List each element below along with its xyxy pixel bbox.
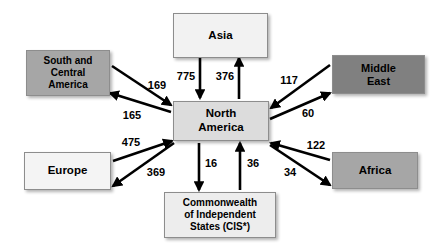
node-label: Commonwealth of Independent States (CIS*… [181, 197, 259, 232]
node-africa[interactable]: Africa [332, 152, 418, 189]
flow-value-south-central-america-to-north-america: 169 [148, 79, 166, 91]
flow-value-asia-to-north-america: 775 [177, 70, 195, 82]
node-south-central-america[interactable]: South and Central America [26, 50, 110, 96]
flow-value-north-america-to-africa: 34 [284, 166, 296, 178]
flow-arrow-north-america-to-middle-east [270, 93, 330, 119]
flow-value-middle-east-to-north-america: 117 [280, 74, 298, 86]
node-label: North America [196, 107, 245, 134]
node-asia[interactable]: Asia [173, 13, 268, 58]
flow-value-north-america-to-south-central-america: 165 [123, 109, 141, 121]
node-cis[interactable]: Commonwealth of Independent States (CIS*… [164, 192, 276, 238]
flow-value-africa-to-north-america: 122 [307, 139, 325, 151]
node-label: Europe [46, 164, 90, 178]
flow-value-europe-to-north-america: 475 [122, 136, 140, 148]
flow-value-cis-to-north-america: 36 [247, 157, 259, 169]
node-label: Asia [206, 29, 234, 43]
flow-value-north-america-to-asia: 376 [216, 70, 234, 82]
node-label: South and Central America [42, 55, 95, 90]
flow-arrow-middle-east-to-north-america [271, 65, 330, 108]
migration-flow-diagram: AsiaSouth and Central AmericaMiddle East… [0, 0, 439, 245]
node-europe[interactable]: Europe [24, 152, 111, 190]
flow-value-north-america-to-middle-east: 60 [302, 107, 314, 119]
flow-value-north-america-to-cis: 16 [205, 157, 217, 169]
node-north-america[interactable]: North America [173, 101, 269, 141]
flow-value-north-america-to-europe: 369 [147, 166, 165, 178]
node-middle-east[interactable]: Middle East [332, 55, 425, 94]
node-label: Middle East [359, 62, 398, 88]
node-label: Africa [357, 164, 394, 178]
